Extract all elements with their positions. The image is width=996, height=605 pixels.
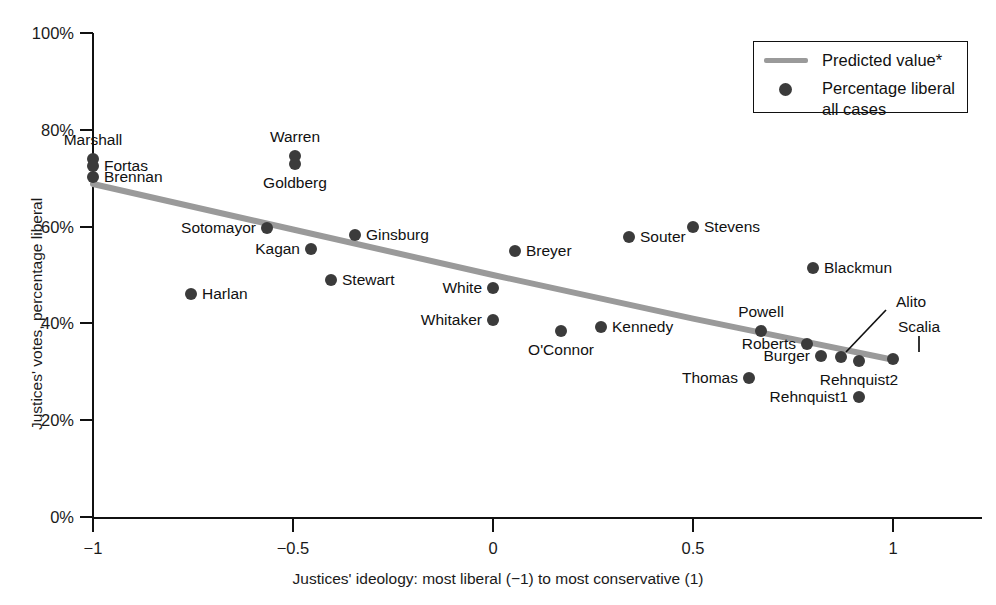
dot-swatch-icon (779, 83, 792, 96)
data-point-kennedy[interactable] (595, 321, 607, 333)
legend-label-percentage-liberal-line1: Percentage liberal (822, 79, 955, 97)
point-label-warren: Warren (270, 130, 320, 146)
point-label-whitaker: Whitaker (421, 312, 482, 328)
data-point-stevens[interactable] (687, 221, 699, 233)
point-label-goldberg: Goldberg (263, 175, 327, 191)
data-point-breyer[interactable] (509, 245, 521, 257)
chart-root: 0%20%40%60%80%100% −1−0.500.51 Justices'… (0, 0, 996, 605)
data-point-blackmun[interactable] (807, 262, 819, 274)
point-label-o-connor: O'Connor (528, 342, 594, 358)
point-label-white: White (442, 280, 482, 296)
point-label-kagan: Kagan (255, 241, 300, 257)
point-label-stevens: Stevens (704, 219, 760, 235)
data-point-brennan[interactable] (87, 171, 99, 183)
point-label-ginsburg: Ginsburg (366, 228, 429, 244)
point-label-rehnquist2: Rehnquist2 (820, 372, 898, 388)
legend-label-predicted-value: Predicted value* (822, 50, 942, 71)
point-label-kennedy: Kennedy (612, 319, 673, 335)
legend-entry-percentage-liberal: Percentage liberal all cases (764, 78, 955, 119)
data-point-fortas[interactable] (87, 160, 99, 172)
chart-legend: Predicted value* Percentage liberal all … (753, 41, 968, 113)
point-label-blackmun: Blackmun (824, 260, 892, 276)
data-point-whitaker[interactable] (487, 314, 499, 326)
data-point-goldberg[interactable] (289, 158, 301, 170)
data-point-white[interactable] (487, 282, 499, 294)
data-point-sotomayor[interactable] (261, 222, 273, 234)
point-label-rehnquist1: Rehnquist1 (770, 389, 848, 405)
point-label-souter: Souter (640, 229, 686, 245)
point-label-burger: Burger (763, 348, 810, 364)
point-label-thomas: Thomas (682, 370, 738, 386)
data-point-rehnquist2[interactable] (853, 355, 865, 367)
legend-entry-predicted-value: Predicted value* (764, 50, 942, 71)
point-label-stewart: Stewart (342, 272, 395, 288)
data-point-harlan[interactable] (185, 288, 197, 300)
point-label-marshall: Marshall (64, 132, 123, 148)
point-label-alito: Alito (896, 294, 926, 310)
point-label-powell: Powell (738, 304, 784, 320)
data-point-kagan[interactable] (305, 243, 317, 255)
point-label-harlan: Harlan (202, 286, 248, 302)
point-label-scalia: Scalia (898, 319, 940, 335)
point-label-sotomayor: Sotomayor (181, 220, 256, 236)
point-label-brennan: Brennan (104, 169, 163, 185)
data-point-ginsburg[interactable] (349, 229, 361, 241)
data-point-alito[interactable] (835, 351, 847, 363)
data-point-stewart[interactable] (325, 274, 337, 286)
data-point-thomas[interactable] (743, 372, 755, 384)
data-point-souter[interactable] (623, 231, 635, 243)
point-label-breyer: Breyer (526, 244, 572, 260)
line-swatch-icon (764, 58, 808, 63)
data-point-rehnquist1[interactable] (853, 391, 865, 403)
data-point-o-connor[interactable] (555, 325, 567, 337)
legend-label-percentage-liberal-line2: all cases (822, 100, 886, 118)
data-point-burger[interactable] (815, 350, 827, 362)
data-point-scalia[interactable] (887, 353, 899, 365)
